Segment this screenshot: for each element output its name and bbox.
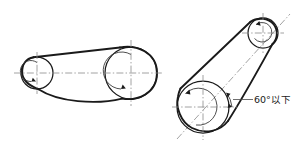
horizontal-drive-diagram — [14, 40, 164, 106]
belt-upper-span — [34, 48, 121, 58]
left-small-pulley-rotation-arrowhead — [32, 78, 37, 82]
inclined-drive-diagram — [172, 13, 290, 140]
angle-annotation-label: 60°以下 — [254, 94, 291, 105]
left-large-pulley-rotation-arrowhead — [121, 84, 126, 89]
inclined-belt-left-span — [181, 22, 251, 89]
right-small-pulley-rotation-arrowhead — [256, 21, 261, 26]
belt-drive-figure: 60°以下 — [0, 0, 300, 154]
drawing-canvas: 60°以下 — [0, 0, 300, 154]
belt-lower-span — [39, 89, 123, 102]
inclined-belt-right-span — [228, 44, 273, 121]
